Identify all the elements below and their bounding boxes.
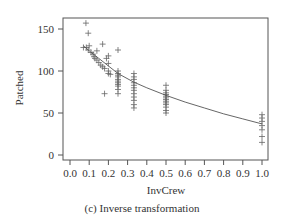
x-tick-label: 0.7 [198, 167, 212, 179]
x-tick-label: 0.1 [82, 167, 96, 179]
plus-marker [131, 105, 137, 111]
plus-marker [85, 30, 91, 36]
scatter-chart: 050100150 0.00.10.20.30.40.50.60.70.80.9… [0, 0, 284, 224]
data-points [80, 20, 265, 145]
y-tick-label: 100 [38, 65, 55, 77]
x-tick-label: 0.8 [217, 167, 231, 179]
y-tick-label: 0 [49, 149, 55, 161]
x-axis: 0.00.10.20.30.40.50.60.70.80.91.0 [63, 160, 269, 179]
x-tick-label: 0.4 [140, 167, 154, 179]
x-axis-label: InvCrew [147, 184, 186, 196]
plus-marker [259, 139, 265, 145]
x-tick-label: 0.6 [178, 167, 192, 179]
x-tick-label: 1.0 [255, 167, 269, 179]
plus-marker [259, 127, 265, 133]
y-axis-label: Patched [13, 70, 25, 105]
plus-marker [102, 91, 108, 97]
figure-caption: (c) Inverse transformation [0, 202, 284, 214]
y-tick-label: 150 [38, 23, 55, 35]
x-tick-label: 0.0 [63, 167, 77, 179]
x-tick-label: 0.3 [121, 167, 135, 179]
plus-marker [115, 91, 121, 97]
plus-marker [115, 47, 121, 53]
plus-marker [94, 48, 100, 54]
x-tick-label: 0.9 [236, 167, 250, 179]
fitted-curve [83, 46, 262, 124]
x-tick-label: 0.2 [102, 167, 116, 179]
plus-marker [86, 43, 92, 49]
plus-marker [100, 41, 106, 47]
plus-marker [259, 134, 265, 140]
y-tick-label: 50 [43, 107, 55, 119]
plot-frame [63, 18, 268, 160]
plus-marker [83, 20, 89, 26]
x-tick-label: 0.5 [159, 167, 173, 179]
y-axis: 050100150 [38, 23, 64, 161]
plus-marker [163, 110, 169, 116]
